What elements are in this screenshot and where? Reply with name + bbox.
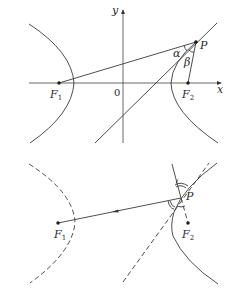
angle-arc-lower bbox=[177, 206, 185, 207]
P-label: P bbox=[199, 39, 208, 52]
point-P bbox=[194, 40, 198, 44]
alpha-label: α bbox=[173, 47, 181, 60]
focus-F1-point bbox=[56, 221, 59, 224]
focus-F1-point bbox=[57, 81, 60, 84]
F1-label: F1 bbox=[53, 228, 66, 242]
reflected-ray bbox=[58, 198, 181, 223]
incoming-ray bbox=[172, 164, 181, 198]
focus-F2-point bbox=[186, 81, 189, 84]
focus-F2-point bbox=[186, 221, 189, 224]
hyperbola-figures: y x 0 F1 F2 P α β bbox=[0, 0, 235, 295]
bottom-diagram: F1 F2 P bbox=[29, 163, 218, 284]
tangent-line-dashed bbox=[123, 163, 209, 282]
F1-label: F1 bbox=[49, 88, 62, 102]
angle-alpha-arc bbox=[184, 46, 187, 52]
y-axis-label: y bbox=[111, 4, 119, 17]
angle-arc-left-2 bbox=[168, 201, 174, 209]
angle-arc-left bbox=[170, 201, 175, 207]
beta-label: β bbox=[183, 56, 190, 69]
origin-label: 0 bbox=[114, 87, 120, 98]
F2-label: F2 bbox=[181, 228, 194, 242]
F2-label: F2 bbox=[181, 88, 194, 102]
x-axis-label: x bbox=[217, 83, 224, 96]
angle-beta-arc bbox=[189, 50, 194, 52]
hyperbola-left-branch-dashed bbox=[29, 164, 75, 283]
P-label: P bbox=[185, 190, 194, 203]
hyperbola-right-branch bbox=[172, 163, 218, 284]
top-diagram: y x 0 F1 F2 P α β bbox=[29, 4, 224, 143]
hyperbola-left-branch bbox=[29, 24, 74, 143]
angle-arc-upper bbox=[176, 186, 186, 188]
